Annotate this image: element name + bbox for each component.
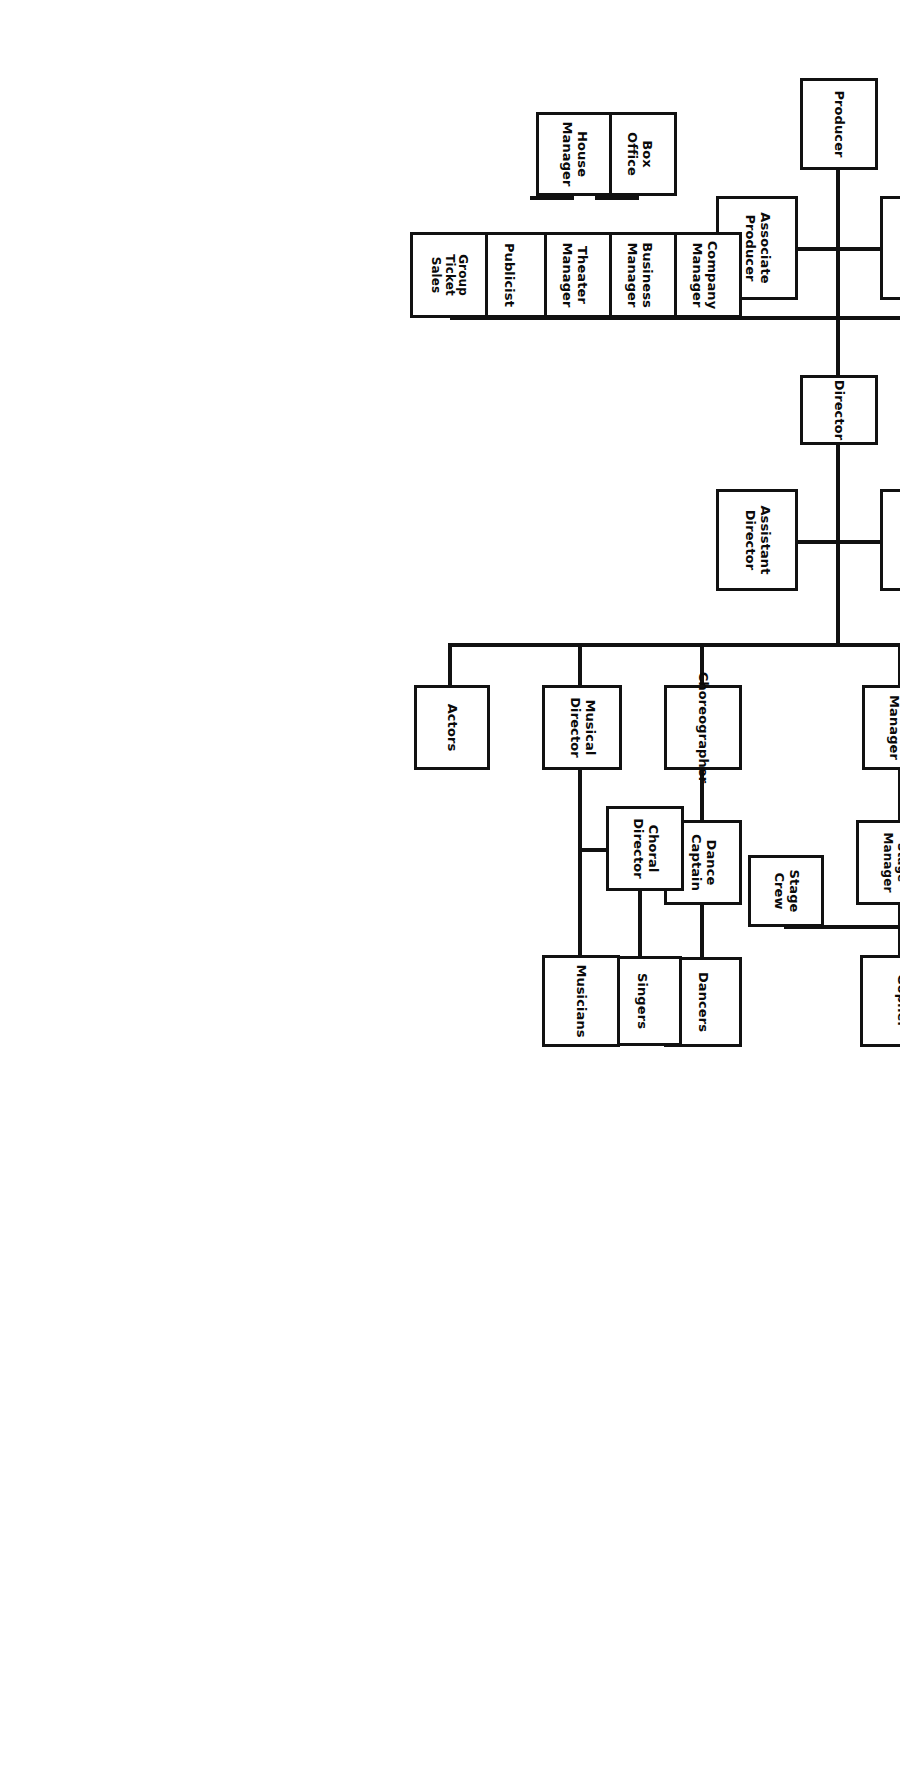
node-actors[interactable]: Actors [414, 685, 490, 770]
connector-director-design-spine [838, 643, 900, 647]
connector-associate-producer [798, 247, 840, 251]
node-house-manager[interactable]: House Manager [536, 112, 612, 196]
connector-musical-director [578, 643, 582, 685]
connector-house-manager [530, 196, 574, 200]
node-musical-director[interactable]: Musical Director [542, 685, 622, 770]
connector-producers-secretary [838, 247, 880, 251]
connector-box-office [595, 196, 639, 200]
node-director[interactable]: Director [800, 375, 878, 445]
node-stage-crew[interactable]: Stage Crew [748, 855, 824, 927]
connector-musicians [578, 770, 582, 955]
node-company-manager[interactable]: Company Manager [666, 232, 742, 318]
connector-singers [638, 880, 642, 956]
connector-director-artistic-spine [450, 643, 840, 647]
node-gopher[interactable]: Gopher [860, 955, 900, 1047]
node-assistant-stage-manager[interactable]: Assistant Stage Manager [856, 820, 900, 905]
connector-director-trunk [836, 445, 840, 645]
connector-actors [448, 643, 452, 685]
node-producers-secretary[interactable]: Producer's Secretary [880, 196, 900, 300]
connector-dancers [700, 905, 704, 957]
node-directors-secretary[interactable]: Director's Secretary [880, 489, 900, 591]
node-group-ticket-sales[interactable]: Group Ticket Sales [410, 232, 488, 318]
node-box-office[interactable]: Box Office [601, 112, 677, 196]
connector-producer-trunk [836, 170, 840, 375]
node-business-manager[interactable]: Business Manager [601, 232, 677, 318]
node-choreographer[interactable]: Choreographer [664, 685, 742, 770]
org-chart-canvas: Producer Producer's Secretary Associate … [0, 0, 900, 1767]
node-producer[interactable]: Producer [800, 78, 878, 170]
node-assistant-director[interactable]: Assistant Director [716, 489, 798, 591]
connector-directors-secretary [838, 540, 880, 544]
node-musicians[interactable]: Musicians [542, 955, 620, 1047]
node-theater-manager[interactable]: Theater Manager [536, 232, 612, 318]
node-choral-director[interactable]: Choral Director [606, 806, 684, 891]
node-stage-manager[interactable]: Stage Manager [862, 685, 900, 770]
connector-assistant-director [798, 540, 840, 544]
connector-production-stage-manager-spine [838, 316, 900, 320]
